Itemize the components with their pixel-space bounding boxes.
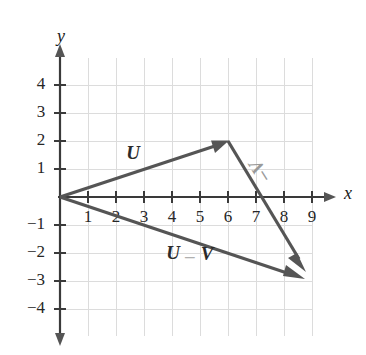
ytick-label-1: 1 (37, 158, 46, 177)
ytick-label-4: 4 (37, 74, 46, 93)
x-axis-label: x (343, 183, 352, 203)
ytick-label-neg1: −1 (27, 214, 45, 233)
xtick-label-9: 9 (308, 207, 317, 226)
ytick-label-2: 2 (37, 130, 46, 149)
ytick-label-neg4: −4 (27, 298, 46, 317)
coordinate-plane-svg: 1 2 3 4 5 6 7 8 9 4 3 2 1 −1 −2 −3 −4 x … (0, 0, 366, 355)
vector-u-label: U (126, 142, 141, 163)
xtick-label-7: 7 (252, 207, 261, 226)
ytick-label-neg2: −2 (27, 242, 45, 261)
vector-u-arrowhead (211, 141, 229, 154)
y-axis-label: y (55, 26, 65, 46)
ytick-label-neg3: −3 (27, 270, 45, 289)
x-axis-arrowhead (324, 192, 336, 202)
xtick-label-1: 1 (84, 207, 93, 226)
vector-u-shaft (60, 144, 221, 197)
xtick-label-6: 6 (224, 207, 233, 226)
y-tick-labels: 4 3 2 1 −1 −2 −3 −4 (27, 74, 46, 317)
vector-neg-v (228, 141, 306, 272)
axes (55, 44, 336, 346)
vector-diagram-figure: 1 2 3 4 5 6 7 8 9 4 3 2 1 −1 −2 −3 −4 x … (0, 0, 366, 355)
xtick-label-4: 4 (168, 207, 177, 226)
vector-neg-v-label: –V (244, 155, 275, 187)
xtick-label-5: 5 (196, 207, 205, 226)
vector-u-minus-v-label-minus: – (184, 245, 195, 266)
vector-u-minus-v-label-v: V (201, 243, 215, 264)
vector-u-minus-v-label-u: U (166, 242, 181, 263)
vector-neg-v-label-group: –V (244, 155, 275, 187)
ytick-label-3: 3 (37, 102, 46, 121)
y-axis-arrowhead-bottom (55, 333, 65, 346)
xtick-label-8: 8 (280, 207, 289, 226)
vector-u-minus-v-label-group: U – V (166, 242, 215, 266)
